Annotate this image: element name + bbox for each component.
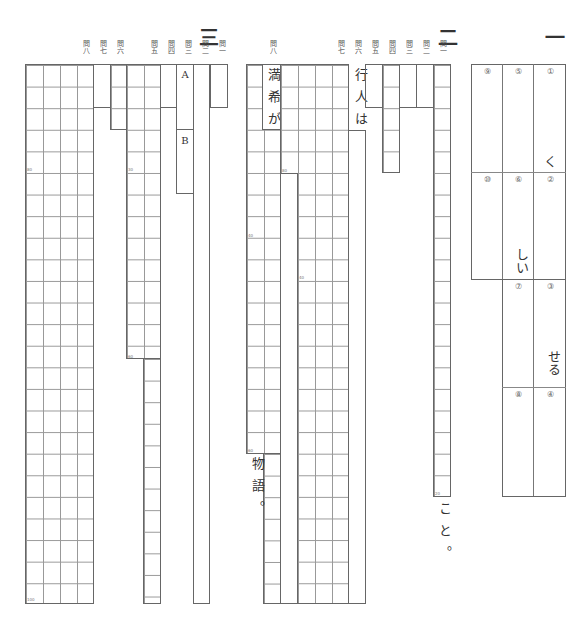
q7-answer-box[interactable] [93, 64, 111, 108]
slot-4[interactable] [534, 388, 565, 496]
q4-label: 問四 [165, 40, 175, 54]
slot-3-answer: せる [540, 350, 560, 376]
q6-label: 問六 [114, 40, 124, 54]
q1-label: 問一 [216, 40, 226, 54]
q5-answer-box[interactable] [365, 64, 383, 108]
q1-answer-box[interactable] [210, 64, 228, 108]
slot-6-number: ⑥ [508, 175, 528, 184]
q3-label-b: B [176, 134, 194, 147]
q3-label: 問三 [182, 40, 192, 54]
slot-10-number: ⑩ [477, 175, 497, 184]
counter: 60 [128, 354, 133, 359]
slot-1-answer: く [540, 155, 560, 168]
q5-label: 問五 [148, 40, 158, 54]
slot-1-number: ① [540, 67, 560, 76]
q8-label: 問八 [80, 40, 90, 54]
q3-label: 問三 [403, 40, 413, 54]
counter: 80 [282, 168, 287, 173]
counter: 100 [27, 597, 35, 602]
q7-label: 問七 [335, 40, 345, 54]
q2-answer-box[interactable] [416, 64, 434, 108]
counter: 60 [248, 448, 253, 453]
slot-5-number: ⑤ [508, 67, 528, 76]
q3-answer-box[interactable] [399, 64, 417, 108]
counter: 40 [248, 233, 253, 238]
q3-label-a: A [176, 68, 194, 81]
counter: 20 [435, 491, 440, 496]
q5-label: 問五 [369, 40, 379, 54]
q7-label: 問七 [97, 40, 107, 54]
q6-label: 問六 [352, 40, 362, 54]
slot-10[interactable] [472, 173, 502, 279]
q8-suffix-text: 物語。 [246, 457, 264, 523]
slot-9[interactable] [472, 64, 502, 172]
q8-label: 問八 [267, 40, 277, 54]
slot-2[interactable] [534, 173, 565, 279]
counter: 40 [299, 275, 304, 280]
slot-7-number: ⑦ [508, 282, 528, 291]
q2-label: 問二 [199, 40, 209, 54]
q8-answer-grid[interactable] [25, 64, 94, 604]
section-one-marker: 一 [545, 22, 563, 51]
q2-answer-box[interactable] [193, 64, 210, 604]
slot-3-number: ③ [540, 282, 560, 291]
counter: 30 [128, 167, 133, 172]
slot-4-number: ④ [540, 390, 560, 399]
q1-suffix-text: こと。 [433, 502, 451, 568]
counter: 80 [27, 167, 32, 172]
slot-5[interactable] [503, 64, 533, 172]
q4-label: 問四 [386, 40, 396, 54]
slot-7[interactable] [503, 280, 533, 387]
q8-answer-grid-b[interactable] [263, 453, 281, 604]
q4-answer-box[interactable] [160, 64, 177, 108]
slot-8[interactable] [503, 388, 533, 496]
q1-label: 問一 [437, 40, 447, 54]
q5-answer-grid-b[interactable] [143, 358, 161, 604]
slot-8-number: ⑧ [508, 390, 528, 399]
q7-grid-gap [280, 173, 298, 604]
slot-6-answer: しい [508, 248, 528, 274]
q5-answer-grid-a[interactable] [126, 64, 161, 359]
q8-prefix-text: 満希が [262, 68, 280, 134]
q2-label: 問二 [420, 40, 430, 54]
slot-2-number: ② [540, 175, 560, 184]
q6-answer-box[interactable] [348, 130, 366, 604]
q4-answer-grid[interactable] [382, 64, 400, 173]
q1-answer-grid[interactable] [433, 64, 451, 497]
slot-9-number: ⑨ [477, 67, 497, 76]
